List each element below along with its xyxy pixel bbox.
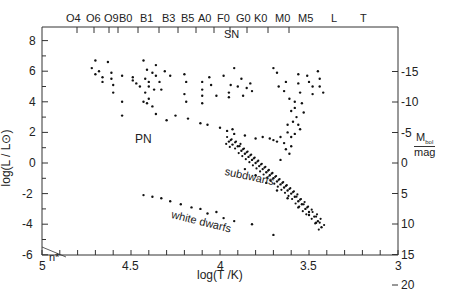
spectral-type-label: M0: [275, 13, 290, 24]
data-point: [121, 101, 123, 103]
data-point: [239, 143, 241, 145]
data-point: [144, 78, 146, 80]
data-point: [253, 157, 255, 159]
data-point: [279, 183, 281, 185]
data-point: [251, 159, 253, 161]
data-point: [112, 84, 114, 86]
data-point: [240, 150, 242, 152]
data-point: [256, 160, 258, 162]
data-point: [231, 143, 233, 145]
data-point: [279, 136, 281, 138]
data-point: [142, 194, 144, 196]
data-point: [272, 234, 274, 236]
data-point: [277, 186, 279, 188]
data-point: [230, 84, 232, 86]
data-point: [296, 193, 298, 195]
data-point: [278, 85, 280, 87]
data-point: [283, 142, 285, 144]
data-point: [297, 200, 299, 202]
data-point: [148, 85, 150, 87]
data-point: [226, 130, 228, 132]
axis-ticks: [42, 27, 398, 285]
data-point: [290, 145, 292, 147]
y-tick-label: -4: [22, 218, 33, 230]
data-point: [238, 152, 240, 154]
data-point: [153, 88, 155, 90]
data-point: [255, 167, 257, 169]
data-point: [302, 210, 304, 212]
data-point: [169, 200, 171, 202]
data-point: [319, 78, 321, 80]
data-point: [230, 139, 232, 141]
data-point: [183, 93, 185, 95]
data-point: [199, 208, 201, 210]
data-point: [288, 188, 290, 190]
data-point: [164, 70, 166, 72]
data-point: [228, 91, 230, 93]
data-point: [206, 124, 208, 126]
data-point: [258, 165, 260, 167]
y2-label-unit: mag: [414, 147, 435, 158]
data-point: [242, 148, 244, 150]
data-point: [285, 148, 287, 150]
data-point: [146, 69, 148, 71]
data-point: [234, 147, 236, 149]
data-point: [225, 143, 227, 145]
data-point: [267, 170, 269, 172]
data-point: [233, 133, 235, 135]
data-point: [315, 216, 317, 218]
data-points: [91, 59, 326, 236]
data-point: [269, 137, 271, 139]
data-point: [311, 93, 313, 95]
data-point: [297, 73, 299, 75]
data-point: [297, 124, 299, 126]
data-point: [276, 72, 278, 74]
data-point: [294, 133, 296, 135]
data-point: [286, 197, 288, 199]
data-point: [239, 145, 241, 147]
data-point: [183, 73, 185, 75]
data-point: [299, 199, 301, 201]
data-point: [295, 202, 297, 204]
data-point: [308, 214, 310, 216]
data-point: [155, 64, 157, 66]
data-point: [316, 213, 318, 215]
y-tick-label: 8: [29, 35, 36, 47]
data-point: [263, 167, 265, 169]
data-point: [254, 162, 256, 164]
hr-diagram: [0, 0, 452, 293]
data-point: [287, 195, 289, 197]
data-point: [240, 78, 242, 80]
data-point: [260, 163, 262, 165]
y-tick-label: -6: [22, 249, 33, 261]
spectral-type-label: O6: [86, 13, 101, 24]
data-point: [146, 102, 148, 104]
spectral-type-label: K0: [254, 13, 267, 24]
data-point: [233, 67, 235, 69]
spectral-type-label: O9: [104, 13, 119, 24]
spectral-type-label: L: [331, 13, 337, 24]
data-point: [187, 117, 189, 119]
data-point: [249, 154, 251, 156]
data-point: [247, 156, 249, 158]
spectral-type-label: B1: [140, 13, 153, 24]
y2-tick-label: 0: [401, 157, 408, 169]
spectral-type-label: B3: [162, 13, 175, 24]
data-point: [242, 95, 244, 97]
data-point: [169, 75, 171, 77]
data-point: [142, 59, 144, 61]
data-point: [185, 101, 187, 103]
y2-tick-label: 10: [401, 218, 414, 230]
data-point: [262, 168, 264, 170]
y2-label-sub: bol: [425, 139, 433, 145]
data-point: [303, 203, 305, 205]
data-point: [101, 76, 103, 78]
data-point: [291, 198, 293, 200]
data-point: [290, 110, 292, 112]
data-point: [91, 67, 93, 69]
data-point: [276, 180, 278, 182]
data-point: [254, 137, 256, 139]
data-point: [222, 217, 224, 219]
data-point: [262, 136, 264, 138]
data-point: [201, 102, 203, 104]
